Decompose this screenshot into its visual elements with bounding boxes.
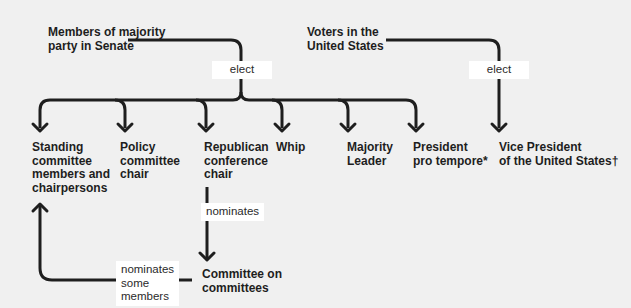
node-senate-majority: Members of majority party in Senate xyxy=(48,26,165,53)
node-president-pro-tempore: President pro tempore* xyxy=(413,141,488,168)
branch-policy-line xyxy=(115,100,125,128)
node-policy-chair: Policy committee chair xyxy=(120,141,180,182)
node-standing-committee: Standing committee members and chairpers… xyxy=(32,141,110,195)
branch-whip-line xyxy=(272,100,282,128)
edge-label-committee-nominates: nominates some members xyxy=(116,261,179,306)
node-vice-president: Vice President of the United States† xyxy=(499,141,618,168)
edge-label-conference-nominates: nominates xyxy=(201,203,264,221)
edge-label-voters-elect: elect xyxy=(469,61,529,79)
voters-to-vp-line xyxy=(386,40,499,128)
senate-leadership-diagram: Members of majority party in Senate Vote… xyxy=(0,0,631,308)
edge-label-senate-elect: elect xyxy=(212,61,272,79)
branch-republican-line xyxy=(196,100,206,128)
node-voters: Voters in the United States xyxy=(307,26,384,53)
node-committee-on-committees: Committee on committees xyxy=(202,268,282,295)
node-republican-conference-chair: Republican conference chair xyxy=(204,141,269,182)
branch-majority-line xyxy=(338,100,348,128)
senate-to-standing-line xyxy=(40,40,241,128)
senate-to-ppt-line xyxy=(241,92,416,128)
node-whip: Whip xyxy=(276,141,305,155)
node-majority-leader: Majority Leader xyxy=(347,141,393,168)
